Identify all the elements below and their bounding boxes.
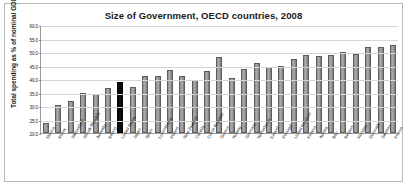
bar [241,69,247,133]
x-axis-label-slot: United States [117,136,123,184]
x-axis-label-slot: Slovak Republic [79,136,85,184]
x-axis-label-slot: Canada [191,136,197,184]
x-axis-label-slot: Ireland [104,136,110,184]
y-axis-tick-label: 25.0 [29,118,38,123]
y-axis-label: Total spending as % of nominal GDP [10,0,17,113]
chart-title: Size of Government, OECD countries, 2008 [0,10,407,21]
x-axis-label-slot: Portugal [278,136,284,184]
x-axis-label-slot: Japan [129,136,135,184]
y-axis-tickmark [39,67,41,68]
x-axis-label-slot: Finland [303,136,309,184]
x-axis-label-slot: France [390,136,396,184]
bar [142,76,148,133]
x-axis-label-slot: Korea [54,136,60,184]
x-axis-label-slot: Luxembourg [154,136,160,184]
x-axis-label-slot: Norway [228,136,234,184]
y-axis-tick-label: 45.0 [29,64,38,69]
x-axis-label-slot: Germany [241,136,247,184]
gridline [41,107,398,108]
x-axis-label-slot: United Kingdom [290,136,296,184]
gridline [41,80,398,81]
x-axis-label-slot: Italy [328,136,334,184]
gridline [41,53,398,54]
y-axis-tickmark [39,53,41,54]
y-axis-ticks: 20.025.030.035.040.045.050.055.060.0 [18,26,38,134]
bar [155,76,161,133]
bar [229,78,235,133]
x-axis-label-slot: Czech Republic [203,136,209,184]
bar [291,59,297,133]
x-axis-label-slot: Austria [315,136,321,184]
x-axis-label-slot: Poland [166,136,172,184]
y-axis-tick-label: 35.0 [29,91,38,96]
gridline [41,40,398,41]
x-axis-label-slot: Switzerland [67,136,73,184]
y-axis-tick-label: 30.0 [29,105,38,110]
y-axis-tickmark [39,134,41,135]
y-axis-tick-label: 55.0 [29,37,38,42]
x-axis-label-slot: Sweden [377,136,383,184]
y-axis-tickmark [39,107,41,108]
y-axis-tickmark [39,40,41,41]
y-axis-tick-label: 20.0 [29,132,38,137]
y-axis-tickmark [39,80,41,81]
chart-figure: Size of Government, OECD countries, 2008… [0,0,407,186]
y-axis-tick-label: 50.0 [29,51,38,56]
bar [278,66,284,133]
x-axis-label-slot: Belgium [340,136,346,184]
y-axis-tickmark [39,94,41,95]
bar [68,101,74,133]
gridline [41,67,398,68]
x-axis-label-slot: New Zealand [179,136,185,184]
y-axis-tick-label: 60.0 [29,24,38,29]
y-axis-tickmark [39,26,41,27]
x-axis-label-slot: Iceland [266,136,272,184]
x-axis-label-slot: Denmark [365,136,371,184]
x-axis-label-slot: Hungary [353,136,359,184]
x-axis-label-slot: Netherlands [253,136,259,184]
bar [179,76,185,133]
x-axis-label-slot: Spain [141,136,147,184]
gridline [41,94,398,95]
x-axis-label-slot: Mexico [42,136,48,184]
y-axis-tickmark [39,121,41,122]
x-axis-labels: MexicoKoreaSwitzerlandSlovak RepublicAus… [40,136,398,184]
x-axis-label-slot: Australia [92,136,98,184]
gridline [41,26,398,27]
x-axis-label-slot: Greece [216,136,222,184]
y-axis-tick-label: 40.0 [29,78,38,83]
